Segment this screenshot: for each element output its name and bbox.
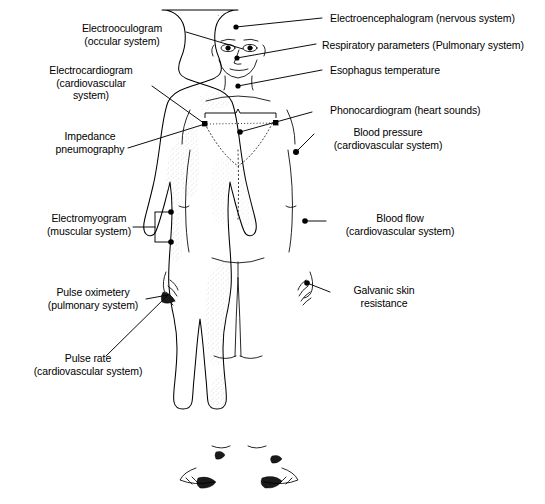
leader-blood-pressure: [296, 134, 314, 152]
site-marker-left-forearm-lower: [168, 239, 174, 245]
site-marker-right-hand: [304, 280, 310, 286]
label-blood-pressure: Blood pressure (cardiovascular system): [318, 126, 458, 151]
site-marker-nose: [234, 55, 239, 60]
label-impedance-pneumography: Impedance pneumography: [30, 130, 150, 155]
right-ankle-shading: [271, 455, 283, 463]
body-silhouette: [144, 10, 313, 488]
label-pulse-rate: Pulse rate (cardiovascular system): [14, 352, 162, 377]
label-blood-flow: Blood flow (cardiovascular system): [330, 212, 470, 237]
site-marker-left-chest: [202, 121, 207, 126]
site-marker-mid-chest: [237, 129, 243, 135]
physiological-monitoring-diagram: Electrooculogram (occular system) Electr…: [0, 0, 545, 504]
site-marker-right-upper-arm: [293, 149, 299, 155]
label-esophagus-temperature: Esophagus temperature: [330, 64, 490, 77]
site-marker-forehead: [233, 24, 238, 29]
label-respiratory-parameters: Respiratory parameters (Pulmonary system…: [322, 39, 544, 52]
label-galvanic-skin-resistance: Galvanic skin resistance: [336, 284, 432, 309]
site-marker-throat: [235, 83, 240, 88]
label-electromyogram: Electromyogram (muscular system): [30, 212, 148, 237]
label-electrooculogram: Electrooculogram (occular system): [62, 22, 182, 47]
label-electroencephalogram: Electroencephalogram (nervous system): [330, 12, 544, 25]
site-marker-right-forearm: [302, 218, 308, 224]
site-marker-left-forearm-upper: [168, 209, 174, 215]
label-electrocardiogram: Electrocardiogram (cardiovascular system…: [26, 64, 156, 102]
label-pulse-oximetery: Pulse oximetery (pulmonary system): [28, 286, 158, 311]
site-marker-right-chest: [273, 120, 278, 125]
leader-galvanic-skin-resistance: [307, 283, 330, 292]
left-ankle-shading: [215, 451, 225, 459]
left-foot-shading: [197, 477, 216, 488]
leader-electroencephalogram: [236, 18, 322, 27]
label-phonocardiogram: Phonocardiogram (heart sounds): [330, 104, 520, 117]
